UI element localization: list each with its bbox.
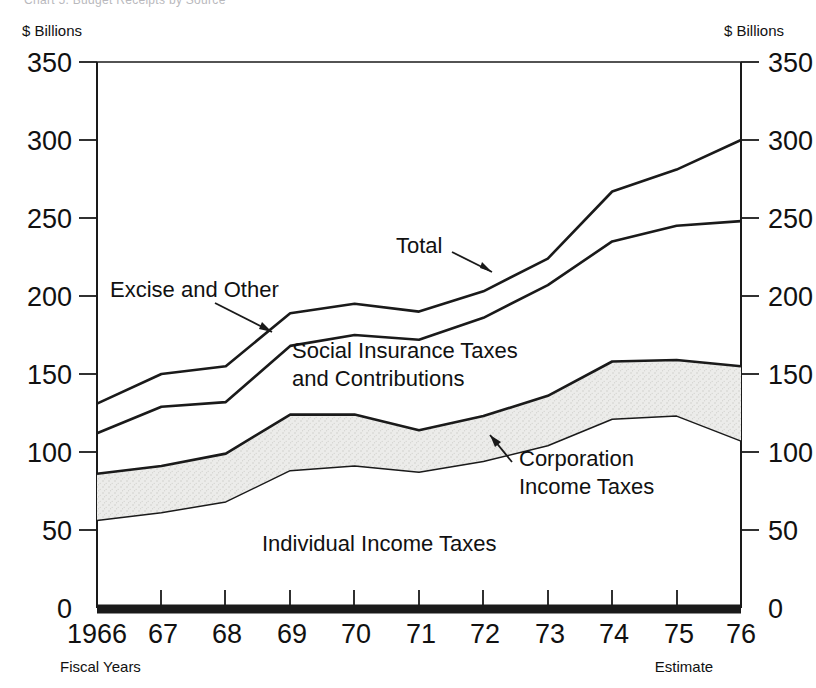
svg-text:70: 70 xyxy=(341,619,371,649)
svg-text:75: 75 xyxy=(664,619,694,649)
label-social-insurance-line2: and Contributions xyxy=(292,366,464,391)
svg-text:150: 150 xyxy=(768,360,813,390)
footnote-fiscal-years: Fiscal Years xyxy=(60,658,141,675)
label-social-insurance-line1: Social Insurance Taxes xyxy=(292,338,518,363)
label-total: Total xyxy=(396,233,442,258)
svg-text:71: 71 xyxy=(406,619,436,649)
svg-text:100: 100 xyxy=(768,438,813,468)
svg-text:68: 68 xyxy=(212,619,242,649)
svg-text:50: 50 xyxy=(42,516,72,546)
chart-figure: Chart 5. Budget Receipts by Source $ Bil… xyxy=(0,0,816,688)
unit-label-left: $ Billions xyxy=(22,22,82,39)
svg-text:69: 69 xyxy=(277,619,307,649)
svg-text:50: 50 xyxy=(768,516,798,546)
y-axis-right-labels: 350 300 250 200 150 100 50 0 xyxy=(768,48,813,624)
svg-text:350: 350 xyxy=(768,48,813,78)
svg-text:76: 76 xyxy=(726,619,756,649)
footnote-estimate: Estimate xyxy=(655,658,713,675)
svg-text:250: 250 xyxy=(27,204,72,234)
svg-text:250: 250 xyxy=(768,204,813,234)
label-excise-and-other: Excise and Other xyxy=(110,277,279,302)
svg-text:73: 73 xyxy=(535,619,565,649)
x-axis-labels: 1966 67 68 69 70 71 72 73 74 75 76 xyxy=(67,619,756,649)
unit-label-right: $ Billions xyxy=(724,22,784,39)
leader-excise xyxy=(215,303,272,332)
y-axis-right-ticks xyxy=(741,62,759,530)
svg-text:74: 74 xyxy=(599,619,629,649)
svg-text:0: 0 xyxy=(768,594,783,624)
label-corporation-line1: Corporation xyxy=(519,446,634,471)
svg-text:300: 300 xyxy=(768,126,813,156)
svg-text:1966: 1966 xyxy=(67,619,127,649)
svg-text:200: 200 xyxy=(27,282,72,312)
svg-text:67: 67 xyxy=(148,619,178,649)
svg-text:200: 200 xyxy=(768,282,813,312)
label-corporation-line2: Income Taxes xyxy=(519,474,654,499)
svg-text:150: 150 xyxy=(27,360,72,390)
svg-text:350: 350 xyxy=(27,48,72,78)
leader-total xyxy=(452,252,492,272)
svg-text:72: 72 xyxy=(470,619,500,649)
y-axis-left-ticks xyxy=(79,62,97,530)
svg-text:300: 300 xyxy=(27,126,72,156)
svg-text:100: 100 xyxy=(27,438,72,468)
label-individual-income-taxes: Individual Income Taxes xyxy=(262,531,496,556)
receipts-by-source-chart: $ Billions $ Billions 350 300 250 200 15… xyxy=(0,0,816,688)
y-axis-left-labels: 350 300 250 200 150 100 50 0 xyxy=(27,48,72,624)
